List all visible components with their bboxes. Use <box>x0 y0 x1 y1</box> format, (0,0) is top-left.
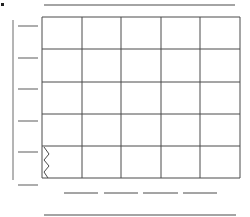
zigzag-break-mark <box>44 147 49 178</box>
wireframe-diagram <box>0 0 250 217</box>
marker-dot <box>1 3 4 6</box>
grid-table <box>42 17 240 178</box>
marker-dot <box>1 3 4 6</box>
zigzag-mark <box>44 147 49 178</box>
left-row-labels-placeholders <box>18 26 38 185</box>
